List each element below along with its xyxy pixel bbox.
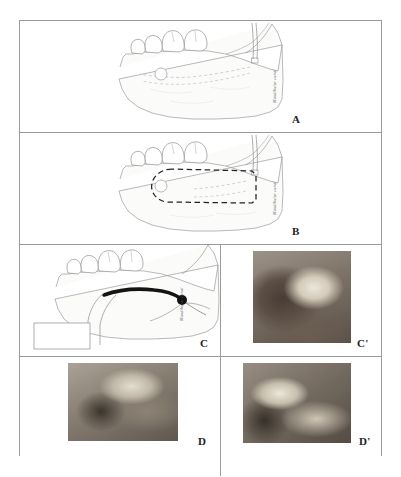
mental-foramen-b <box>155 180 167 192</box>
canal-label-c: Mandibular canal <box>179 287 184 321</box>
panel-b: Mandibular canal B <box>20 133 381 244</box>
mental-foramen-a <box>155 68 167 80</box>
panel-letter-c-prime: C' <box>357 337 369 349</box>
panel-letter-d: D <box>198 435 206 447</box>
mandible-drawing-c <box>20 245 220 356</box>
panel-c-prime: C' <box>221 245 381 356</box>
panel-letter-a: A <box>292 113 300 125</box>
panel-c: Mandibular canal C <box>20 245 220 356</box>
mandible-drawing-a <box>20 21 381 132</box>
clinical-photo-d <box>68 363 178 441</box>
figure-frame: Mandibular canal A <box>19 20 382 456</box>
canal-label-b: Mandibular canal <box>272 181 277 215</box>
bone-block-c <box>34 323 90 349</box>
clinical-photo-c-prime <box>253 251 351 343</box>
clinical-photo-d-prime <box>243 363 351 443</box>
panel-d-prime: D' <box>221 357 381 456</box>
panel-letter-c: C <box>200 337 208 349</box>
panel-letter-d-prime: D' <box>359 435 371 447</box>
mandible-drawing-b <box>20 133 381 244</box>
panel-a: Mandibular canal A <box>20 21 381 132</box>
panel-d: D <box>20 357 220 456</box>
canal-label-a: Mandibular canal <box>272 69 277 103</box>
panel-letter-b: B <box>292 225 300 237</box>
